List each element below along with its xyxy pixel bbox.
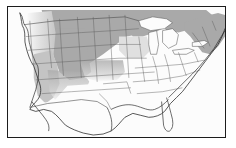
map-svg	[8, 7, 225, 137]
shaded-region-cornbelt-fade	[119, 37, 151, 59]
map-figure	[0, 0, 236, 148]
water-lake-michigan	[149, 31, 159, 55]
map-frame	[7, 6, 226, 138]
